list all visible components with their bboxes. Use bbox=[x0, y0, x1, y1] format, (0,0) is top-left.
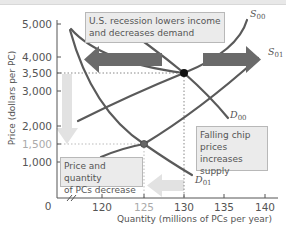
y-tick-4000: 4,000 bbox=[22, 51, 52, 63]
x-tick-130: 130 bbox=[174, 201, 194, 213]
x-tick-125: 125 bbox=[134, 201, 154, 213]
equilibrium-point-new bbox=[141, 141, 148, 148]
y-tick-1000: 1,000 bbox=[22, 156, 52, 168]
result-note-line2: of PCs decrease bbox=[64, 184, 139, 196]
result-note: Price and quantity of PCs decrease bbox=[60, 157, 143, 187]
supply-note: Falling chip prices increases supply bbox=[196, 126, 268, 171]
x-tick-140: 140 bbox=[255, 201, 275, 213]
label-s01: S01 bbox=[268, 46, 283, 59]
supply-note-line1: Falling chip bbox=[200, 129, 264, 141]
y-tick-3500: 3,500 bbox=[22, 67, 52, 79]
curve-d01 bbox=[70, 30, 192, 175]
x-axis-title: Quantity (millions of PCs per year) bbox=[117, 214, 272, 224]
y-tick-2000: 2,000 bbox=[22, 120, 52, 132]
x-tick-135: 135 bbox=[214, 201, 234, 213]
demand-shift-arrow bbox=[84, 46, 162, 73]
label-d00: D00 bbox=[229, 109, 247, 122]
x-tick-120: 120 bbox=[92, 201, 112, 213]
supply-note-line2: prices increases bbox=[200, 141, 264, 165]
y-axis-title: Price (dollars per PC) bbox=[7, 51, 17, 145]
supply-shift-arrow bbox=[203, 46, 261, 73]
y-tick-3000: 3,000 bbox=[22, 85, 52, 97]
equilibrium-point-initial bbox=[180, 69, 188, 77]
price-decrease-arrow bbox=[56, 74, 78, 144]
demand-note: U.S. recession lowers income and decreas… bbox=[85, 12, 225, 43]
result-note-line1: Price and quantity bbox=[64, 160, 139, 184]
demand-note-line1: U.S. recession lowers income bbox=[89, 15, 221, 27]
y-tick-1500: 1,500 bbox=[22, 138, 52, 150]
origin-label: 0 bbox=[45, 200, 52, 212]
quantity-decrease-arrow bbox=[147, 174, 184, 197]
y-tick-5000: 5,000 bbox=[22, 18, 52, 30]
demand-note-line2: and decreases demand bbox=[89, 27, 221, 39]
label-s00: S00 bbox=[250, 8, 265, 21]
supply-note-line3: supply bbox=[200, 165, 264, 177]
